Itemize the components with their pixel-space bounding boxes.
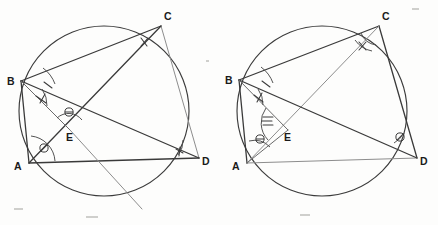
right-vertex-label-E: E	[284, 131, 291, 143]
right-vertex-label-B: B	[225, 74, 233, 86]
left-circle-diagram: B C A D E	[7, 10, 210, 209]
right-angle-mark-B-upper	[262, 81, 270, 87]
left-vertex-label-E: E	[66, 131, 73, 143]
left-vertex-label-D: D	[202, 155, 210, 167]
scan-specks	[14, 8, 419, 218]
left-circumcircle	[19, 26, 189, 196]
left-segment-AB	[21, 81, 29, 163]
right-segment-BD	[239, 80, 417, 158]
right-segment-CD	[379, 26, 417, 158]
right-circle-diagram: B C A D E	[225, 10, 428, 196]
right-segment-AB	[239, 80, 247, 163]
right-circumcircle	[237, 26, 407, 196]
geometry-canvas: B C A D E	[0, 0, 438, 225]
right-vertex-label-C: C	[382, 10, 390, 22]
left-angle-mark-B-upper	[44, 82, 52, 88]
left-angle-mark-D-b	[179, 147, 180, 156]
right-vertex-label-A: A	[232, 160, 240, 172]
left-angle-mark-A-slash	[41, 145, 47, 151]
left-vertex-label-B: B	[7, 75, 15, 87]
left-segment-E-ray	[70, 130, 142, 209]
right-angle-arc-A	[249, 140, 270, 147]
right-segment-AE	[247, 130, 288, 163]
left-vertex-label-C: C	[164, 10, 172, 22]
left-segment-BE	[21, 81, 70, 130]
right-vertex-label-D: D	[420, 155, 428, 167]
left-vertex-label-A: A	[14, 160, 22, 172]
right-segment-BE	[239, 80, 288, 130]
geometry-figure-board: B C A D E	[0, 0, 438, 225]
left-angle-arc-E	[57, 113, 82, 120]
left-segment-CD	[161, 26, 199, 158]
